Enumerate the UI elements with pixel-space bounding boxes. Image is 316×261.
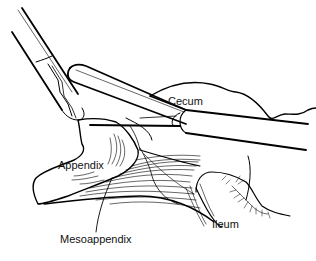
- appendix-label: Appendix: [58, 160, 104, 171]
- mesoappendix-label: Mesoappendix: [60, 234, 132, 245]
- illustration-drawing: [0, 0, 316, 261]
- trocar-shaft: [68, 65, 308, 150]
- cecum-label: Cecum: [168, 96, 203, 107]
- surgical-illustration: Cecum Appendix Mesoappendix Ileum: [0, 0, 316, 261]
- grasper-instrument: [12, 8, 84, 120]
- ileum-label: Ileum: [212, 219, 239, 230]
- ileum-shape: [186, 156, 290, 227]
